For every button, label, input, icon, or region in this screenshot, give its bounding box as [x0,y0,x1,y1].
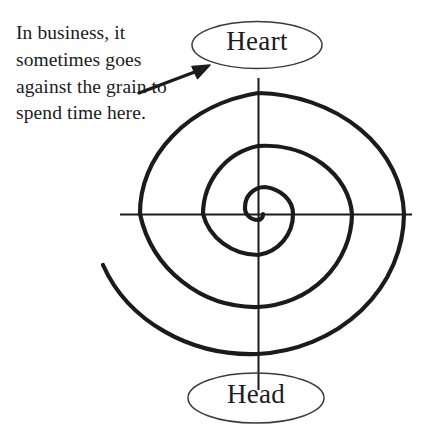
head-node-label: Head [188,379,324,410]
spiral-path [103,93,404,354]
heart-node-label: Heart [192,26,322,57]
spiral-diagram-figure: In business, it sometimes goes against t… [0,0,431,432]
annotation-caption: In business, it sometimes goes against t… [16,20,176,127]
